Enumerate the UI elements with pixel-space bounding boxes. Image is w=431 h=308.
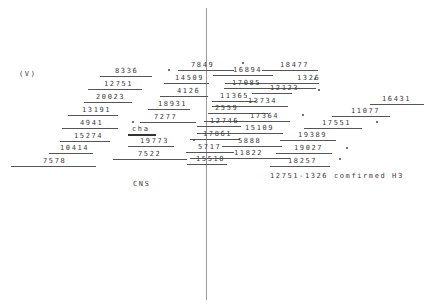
segment-label: 17364 [250, 112, 279, 120]
segment-label: 19773 [140, 137, 169, 145]
segment-line [280, 140, 336, 141]
confirmation-note: 12751-1326 comfirmed H3 [270, 172, 404, 180]
segment-line [252, 93, 292, 94]
marker-dot [132, 121, 134, 123]
marker-dot [318, 89, 320, 91]
segment-label: 7522 [138, 150, 161, 158]
marker-dot [242, 62, 244, 64]
vertical-axis-line [206, 8, 207, 300]
segment-line [276, 153, 332, 154]
segment-line [178, 70, 234, 71]
segment-label: 12123 [270, 84, 299, 92]
segment-label: 18477 [280, 61, 309, 69]
segment-label: 20023 [96, 93, 125, 101]
segment-line [140, 122, 196, 123]
segment-line [84, 102, 132, 103]
segment-label: 17551 [322, 119, 351, 127]
segment-label: 15274 [74, 132, 103, 140]
segment-label: 19389 [298, 131, 327, 139]
corner-label: (V) [19, 70, 36, 78]
segment-line [128, 146, 174, 147]
bottom-label: CNS [133, 180, 150, 188]
segment-line [113, 159, 187, 160]
segment-label: 2559 [215, 104, 238, 112]
segment-line [190, 139, 240, 140]
segment-label: 11822 [234, 149, 263, 157]
segment-line [164, 83, 209, 84]
segment-label: cha [132, 125, 149, 133]
segment-label: 16894 [233, 66, 262, 74]
segment-label: 7277 [154, 113, 177, 121]
segment-label: 1326 [297, 74, 320, 82]
segment-line [186, 152, 234, 153]
segment-label: 12746 [210, 117, 239, 125]
segment-line [60, 141, 110, 142]
segment-label: 5717 [198, 143, 221, 151]
marker-dot [376, 121, 378, 123]
segment-line [332, 116, 390, 117]
segment-label: 17085 [232, 79, 261, 87]
segment-label: 16431 [382, 95, 411, 103]
marker-dot [168, 69, 170, 71]
segment-label: 19027 [294, 144, 323, 152]
segment-label: 18257 [288, 157, 317, 165]
segment-label: 13191 [82, 106, 111, 114]
segment-label: 11365 [220, 92, 249, 100]
marker-dot [314, 78, 316, 80]
segment-line [262, 70, 318, 71]
segment-line [304, 128, 362, 129]
segment-line [49, 153, 93, 154]
segment-label: 17861 [203, 130, 232, 138]
segment-label: 4941 [80, 119, 103, 127]
marker-dot [339, 158, 341, 160]
segment-label: 7849 [191, 61, 214, 69]
segment-line [100, 76, 152, 77]
segment-line [160, 96, 208, 97]
segment-line [68, 115, 118, 116]
marker-dot [302, 114, 304, 116]
segment-label: 11077 [351, 107, 380, 115]
marker-dot [193, 139, 195, 141]
segment-line [213, 75, 273, 76]
segment-line [62, 128, 118, 129]
marker-dot [346, 147, 348, 149]
segment-label: 8336 [115, 67, 138, 75]
segment-line [148, 109, 190, 110]
segment-line [11, 166, 96, 167]
segment-line [88, 89, 142, 90]
segment-label: 12751 [104, 80, 133, 88]
segment-line [187, 164, 227, 165]
segment-label: 15510 [196, 155, 225, 163]
segment-line [197, 126, 241, 127]
segment-label: 7578 [43, 157, 66, 165]
segment-line [128, 134, 156, 136]
segment-line [270, 166, 330, 167]
segment-label: 4126 [177, 87, 200, 95]
segment-label: 10414 [60, 144, 89, 152]
segment-label: 18931 [158, 100, 187, 108]
segment-label: 13734 [248, 97, 277, 105]
segment-line [370, 104, 424, 105]
segment-label: 5888 [238, 137, 261, 145]
segment-label: 15109 [245, 124, 274, 132]
segment-label: 14509 [175, 74, 204, 82]
segment-line [222, 146, 282, 147]
